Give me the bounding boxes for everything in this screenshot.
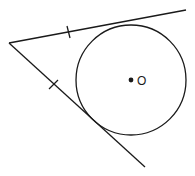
tangent-diagram: O bbox=[0, 0, 195, 176]
center-point bbox=[129, 78, 134, 83]
center-label: O bbox=[137, 74, 146, 88]
upper-tangent-line bbox=[9, 10, 186, 43]
lower-tangent-line bbox=[9, 43, 145, 167]
